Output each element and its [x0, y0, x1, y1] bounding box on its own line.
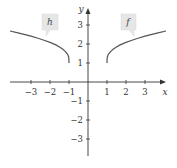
y-tick-label: 1 — [78, 58, 83, 68]
y-axis-arrow-icon — [86, 8, 91, 14]
x-tick-label: 2 — [123, 87, 128, 97]
y-axis-label: y — [77, 4, 84, 14]
x-axis-label: x — [162, 87, 167, 97]
x-tick-label: 3 — [142, 87, 147, 97]
x-tick-label: −3 — [25, 87, 38, 97]
y-tick-label: −1 — [70, 96, 83, 106]
label-h: h — [47, 17, 53, 27]
x-tick-label: 1 — [104, 87, 109, 97]
y-tick-label: −3 — [70, 134, 83, 144]
y-tick-label: −2 — [70, 115, 83, 125]
x-axis: −3 −2 −1 1 2 3 x — [10, 80, 168, 98]
label-callout-f: f — [121, 14, 136, 36]
x-tick-label: −2 — [44, 87, 57, 97]
h-curve — [10, 31, 69, 63]
y-tick-label: 3 — [78, 20, 83, 30]
function-graph: −3 −2 −1 1 2 3 x 3 2 1 −1 −2 −3 y h f — [0, 0, 177, 168]
y-tick-label: 2 — [78, 39, 83, 49]
y-axis: 3 2 1 −1 −2 −3 y — [70, 4, 90, 156]
x-axis-arrow-icon — [160, 80, 166, 85]
f-curve — [107, 31, 166, 63]
label-callout-h: h — [42, 14, 58, 36]
